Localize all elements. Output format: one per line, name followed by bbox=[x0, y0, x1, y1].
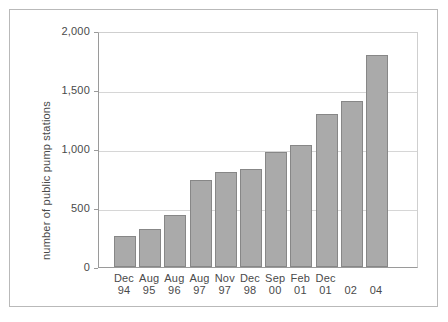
plot-area bbox=[98, 32, 418, 268]
bar-series bbox=[99, 33, 417, 267]
y-tick-label: 0 bbox=[52, 261, 90, 273]
bar bbox=[215, 172, 237, 267]
bar bbox=[366, 55, 388, 267]
x-tick-label: 04 bbox=[356, 272, 396, 296]
bar bbox=[139, 229, 161, 267]
y-tick-mark bbox=[94, 268, 98, 269]
bar bbox=[164, 215, 186, 267]
bar bbox=[114, 236, 136, 267]
y-tick-label: 1,500 bbox=[52, 84, 90, 96]
y-axis-label: number of public pump stations bbox=[40, 101, 52, 260]
y-tick-label: 2,000 bbox=[52, 25, 90, 37]
bar bbox=[240, 169, 262, 267]
x-tick-month bbox=[356, 272, 396, 284]
bar bbox=[190, 180, 212, 267]
y-tick-label: 1,000 bbox=[52, 143, 90, 155]
bar bbox=[316, 114, 338, 267]
bar bbox=[265, 152, 287, 267]
bar-chart-figure: number of public pump stations 05001,000… bbox=[0, 0, 448, 322]
bar bbox=[290, 145, 312, 267]
y-tick-label: 500 bbox=[52, 202, 90, 214]
bar bbox=[341, 101, 363, 267]
x-tick-year: 04 bbox=[356, 284, 396, 296]
